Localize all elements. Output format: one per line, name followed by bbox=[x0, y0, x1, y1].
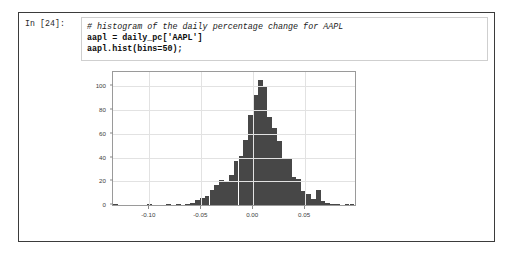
screenshot-root: In [24]: # histogram of the daily percen… bbox=[0, 0, 509, 256]
y-tick-label: 100 bbox=[96, 82, 106, 89]
plot-area bbox=[112, 71, 356, 206]
histogram-bar bbox=[335, 204, 340, 205]
x-axis-labels: -0.10-0.050.000.05 bbox=[112, 206, 356, 224]
gridline-vertical bbox=[253, 72, 254, 205]
y-tick-mark bbox=[110, 204, 113, 205]
gridline-vertical bbox=[305, 72, 306, 205]
y-tick-label: 20 bbox=[99, 177, 106, 184]
y-tick-label: 80 bbox=[99, 106, 106, 113]
y-tick-mark bbox=[110, 180, 113, 181]
histogram-bar bbox=[176, 204, 181, 205]
histogram-bar bbox=[350, 204, 355, 205]
notebook-cell[interactable]: In [24]: # histogram of the daily percen… bbox=[18, 12, 495, 242]
code-line-comment: # histogram of the daily percentage chan… bbox=[87, 22, 482, 33]
code-line-hist-call: aapl.hist(bins=50); bbox=[87, 44, 482, 55]
x-tick-label: -0.10 bbox=[141, 211, 155, 218]
histogram-bar bbox=[113, 204, 118, 205]
x-tick-label: -0.05 bbox=[193, 211, 207, 218]
y-tick-mark bbox=[110, 156, 113, 157]
x-tick-mark bbox=[200, 206, 201, 209]
x-tick-mark bbox=[148, 206, 149, 209]
x-tick-mark bbox=[252, 206, 253, 209]
cell-prompt-label: In [24]: bbox=[19, 13, 81, 30]
code-input-area[interactable]: # histogram of the daily percentage chan… bbox=[81, 17, 488, 61]
histogram-bar bbox=[166, 204, 171, 205]
x-tick-label: 0.05 bbox=[298, 211, 310, 218]
x-tick-mark bbox=[304, 206, 305, 209]
y-tick-label: 60 bbox=[99, 129, 106, 136]
histogram-chart: 020406080100 -0.10-0.050.000.05 bbox=[86, 71, 356, 224]
y-tick-label: 40 bbox=[99, 153, 106, 160]
gridline-vertical bbox=[201, 72, 202, 205]
y-tick-label: 0 bbox=[103, 201, 106, 208]
gridline-vertical bbox=[149, 72, 150, 205]
x-tick-label: 0.00 bbox=[246, 211, 258, 218]
output-figure: 020406080100 -0.10-0.050.000.05 bbox=[19, 65, 496, 241]
code-cell-row: In [24]: # histogram of the daily percen… bbox=[19, 13, 494, 61]
y-tick-mark bbox=[110, 109, 113, 110]
y-axis-labels: 020406080100 bbox=[86, 71, 110, 224]
code-line-assignment: aapl = daily_pc['AAPL'] bbox=[87, 33, 482, 44]
y-tick-mark bbox=[110, 132, 113, 133]
y-tick-mark bbox=[110, 85, 113, 86]
